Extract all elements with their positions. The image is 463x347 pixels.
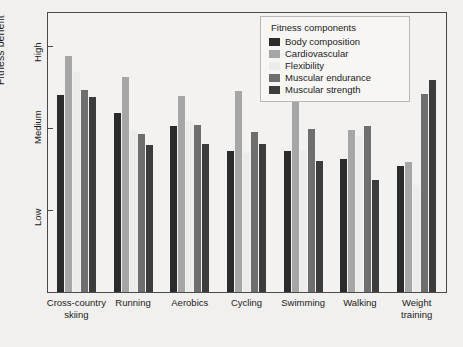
y-tick-label: Low — [32, 209, 43, 226]
legend-label: Muscular endurance — [285, 72, 371, 83]
bar — [348, 130, 355, 292]
bar — [243, 153, 250, 293]
bar — [138, 134, 145, 292]
legend-label: Flexibility — [285, 60, 324, 71]
fitness-benefit-bar-chart: Fitness benefit LowMediumHigh Cross-coun… — [0, 0, 463, 347]
legend-item: Muscular strength — [269, 84, 403, 95]
bar — [308, 129, 315, 292]
bar — [122, 77, 129, 292]
legend-title: Fitness components — [271, 22, 403, 33]
bar — [65, 56, 72, 292]
bar — [81, 90, 88, 292]
y-tick-label: High — [32, 42, 43, 62]
bar — [397, 166, 404, 292]
bar — [73, 72, 80, 292]
legend-label: Body composition — [285, 36, 360, 47]
bar-group — [48, 13, 105, 292]
legend-swatch — [269, 86, 280, 94]
bar — [227, 151, 234, 292]
bar — [429, 80, 436, 292]
legend-item: Body composition — [269, 36, 403, 47]
bar — [284, 151, 291, 292]
bar — [316, 161, 323, 292]
legend-label: Cardiovascular — [285, 48, 348, 59]
legend-swatch — [269, 62, 280, 70]
bar — [202, 144, 209, 292]
legend-item: Cardiovascular — [269, 48, 403, 59]
legend-item: Muscular endurance — [269, 72, 403, 83]
y-tick-label: Medium — [32, 110, 43, 144]
bar — [356, 136, 363, 292]
legend-items: Body compositionCardiovascularFlexibilit… — [267, 36, 403, 95]
x-tick-label: Weight training — [376, 297, 457, 320]
y-axis-title: Fitness benefit — [0, 0, 6, 120]
legend-label: Muscular strength — [285, 84, 361, 95]
bar — [130, 130, 137, 292]
bar — [340, 159, 347, 292]
bar — [251, 132, 258, 292]
bar — [292, 101, 299, 292]
legend-swatch — [269, 74, 280, 82]
bar — [178, 96, 185, 292]
bar — [186, 121, 193, 292]
bar — [421, 94, 428, 292]
bar-group — [161, 13, 218, 292]
bar — [372, 180, 379, 292]
legend-swatch — [269, 38, 280, 46]
bar — [364, 126, 371, 292]
bar — [146, 145, 153, 292]
bar — [57, 95, 64, 292]
bar — [235, 91, 242, 292]
bar — [114, 113, 121, 292]
bar — [259, 144, 266, 292]
bar — [405, 162, 412, 292]
bar — [413, 185, 420, 292]
bar — [170, 126, 177, 292]
bar — [300, 150, 307, 292]
bar-group — [105, 13, 162, 292]
bar — [194, 125, 201, 292]
bar — [89, 97, 96, 292]
legend-swatch — [269, 50, 280, 58]
chart-legend: Fitness components Body compositionCardi… — [260, 16, 410, 102]
legend-item: Flexibility — [269, 60, 403, 71]
